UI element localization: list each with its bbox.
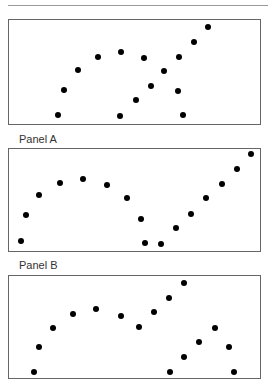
data-point	[80, 176, 86, 182]
data-point	[138, 216, 144, 222]
data-point	[117, 113, 123, 119]
data-point	[136, 324, 142, 330]
data-point	[203, 195, 209, 201]
data-point	[93, 306, 99, 312]
scatter-panel-A	[8, 148, 261, 252]
data-point	[205, 24, 211, 30]
data-point	[70, 311, 76, 317]
data-point	[173, 225, 179, 231]
data-point	[180, 112, 186, 118]
data-point	[188, 211, 194, 217]
data-point	[75, 67, 81, 73]
data-point	[226, 344, 232, 350]
data-point	[176, 54, 182, 60]
data-point	[23, 212, 29, 218]
data-point	[234, 166, 240, 172]
data-point	[142, 240, 148, 246]
data-point	[36, 344, 42, 350]
data-point	[36, 192, 42, 198]
data-point	[166, 295, 172, 301]
data-point	[61, 87, 67, 93]
data-point	[196, 339, 202, 345]
data-point	[141, 55, 147, 61]
data-point	[181, 354, 187, 360]
data-point	[18, 238, 24, 244]
data-point	[167, 369, 173, 375]
data-point	[219, 181, 225, 187]
data-point	[148, 83, 154, 89]
panel-label: Panel A	[19, 133, 57, 145]
data-point	[124, 195, 130, 201]
data-point	[57, 180, 63, 186]
data-point	[118, 49, 124, 55]
data-point	[50, 325, 56, 331]
data-point	[161, 68, 167, 74]
data-point	[95, 54, 101, 60]
data-point	[191, 39, 197, 45]
top-rule	[8, 5, 268, 6]
data-point	[212, 325, 218, 331]
data-point	[118, 313, 124, 319]
data-point	[158, 241, 164, 247]
data-point	[231, 369, 237, 375]
data-point	[31, 369, 37, 375]
data-point	[151, 309, 157, 315]
data-point	[248, 151, 254, 157]
data-point	[181, 280, 187, 286]
scatter-panel-B	[8, 275, 261, 379]
scatter-panel-top	[8, 19, 261, 125]
data-point	[133, 97, 139, 103]
data-point	[175, 88, 181, 94]
panel-label: Panel B	[19, 259, 58, 271]
data-point	[104, 182, 110, 188]
data-point	[55, 112, 61, 118]
